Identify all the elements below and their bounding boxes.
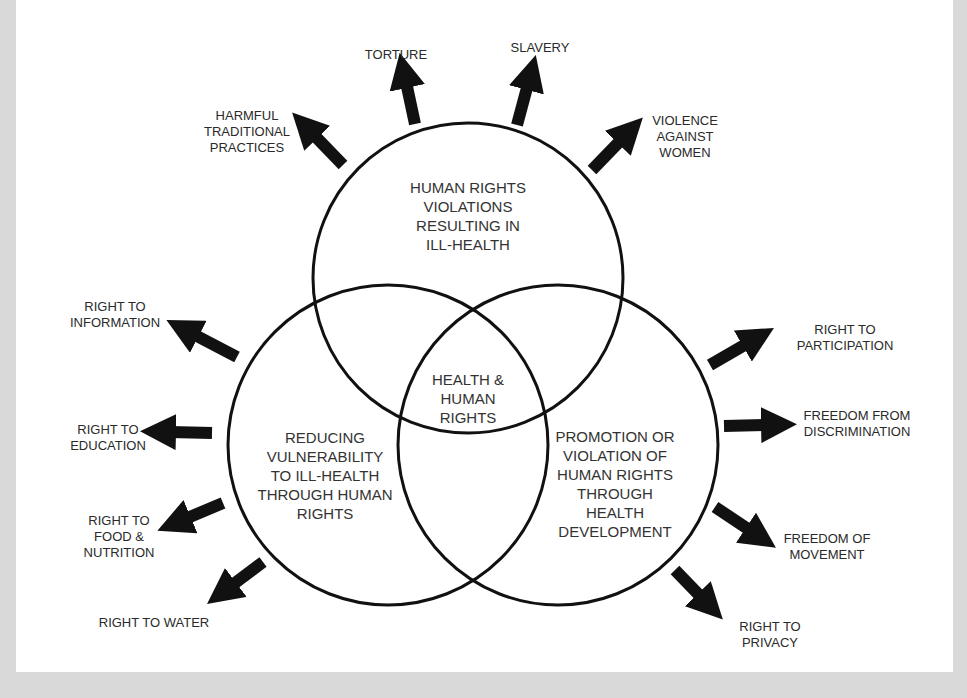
label-violence: VIOLENCE AGAINST WOMEN: [652, 113, 718, 161]
label-movement: FREEDOM OF MOVEMENT: [784, 531, 871, 563]
circle-left-label: REDUCING VULNERABILITY TO ILL-HEALTH THR…: [258, 428, 393, 523]
label-education: RIGHT TO EDUCATION: [70, 422, 146, 454]
circle-top-label: HUMAN RIGHTS VIOLATIONS RESULTING IN ILL…: [410, 178, 526, 254]
label-participation: RIGHT TO PARTICIPATION: [797, 322, 894, 354]
arrow-harmful-icon: [313, 134, 343, 165]
arrow-water-icon: [231, 562, 263, 586]
center-label: HEALTH & HUMAN RIGHTS: [432, 370, 504, 427]
label-discrimination: FREEDOM FROM DISCRIMINATION: [804, 408, 911, 440]
label-slavery: SLAVERY: [511, 40, 570, 56]
label-information: RIGHT TO INFORMATION: [70, 299, 160, 331]
arrow-discrimination-icon: [724, 425, 767, 426]
arrow-slavery-icon: [517, 84, 528, 125]
label-water: RIGHT TO WATER: [99, 615, 210, 631]
arrow-violence-icon: [592, 139, 622, 170]
label-food: RIGHT TO FOOD & NUTRITION: [84, 513, 155, 561]
arrow-participation-icon: [710, 343, 748, 365]
arrow-food-icon: [185, 503, 223, 519]
arrow-privacy-icon: [675, 570, 702, 598]
arrow-education-icon: [170, 432, 212, 433]
arrow-torture-icon: [406, 82, 415, 124]
label-torture: TORTURE: [365, 47, 427, 63]
arrow-movement-icon: [715, 507, 751, 531]
label-harmful: HARMFUL TRADITIONAL PRACTICES: [204, 108, 290, 156]
circle-right-label: PROMOTION OR VIOLATION OF HUMAN RIGHTS T…: [555, 427, 674, 541]
arrow-information-icon: [193, 334, 237, 357]
label-privacy: RIGHT TO PRIVACY: [739, 619, 800, 651]
